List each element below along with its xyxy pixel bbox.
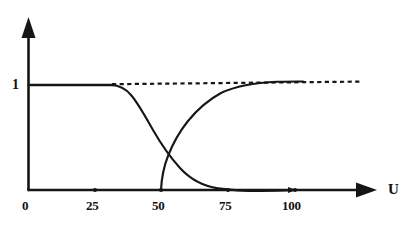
chart-plot-area: [0, 0, 420, 231]
y-axis-arrow-icon: [22, 17, 36, 38]
y-axis-value-label: 1: [12, 78, 19, 92]
increasing-curve: [161, 81, 303, 190]
decreasing-curve: [111, 85, 292, 191]
decreasing-curve-endpoint-marker: [288, 187, 296, 193]
chart-figure: 1 0 25 50 75 100 U: [0, 0, 420, 231]
x-tick-label-75: 75: [219, 199, 232, 212]
x-tick-label-100: 100: [282, 199, 301, 212]
x-tick-label-25: 25: [86, 199, 99, 212]
x-tick-label-50: 50: [152, 199, 165, 212]
x-tick-label-0: 0: [22, 199, 28, 212]
x-axis-arrow-icon: [356, 183, 377, 198]
x-axis-label: U: [388, 182, 399, 197]
x-tick-dot-25: [93, 188, 97, 192]
asymptote-dashed-line: [112, 82, 360, 85]
x-tick-dot-0: [27, 189, 30, 192]
